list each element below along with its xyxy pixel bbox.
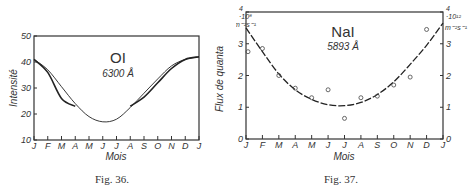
svg-text:30: 30	[21, 83, 31, 93]
svg-text:J: J	[243, 140, 249, 150]
right-unit-exponent: ·10¹²	[446, 13, 461, 20]
svg-text:3: 3	[238, 39, 243, 49]
svg-text:J: J	[113, 141, 119, 151]
svg-text:0: 0	[238, 134, 243, 144]
svg-text:0: 0	[446, 134, 451, 144]
svg-text:20: 20	[20, 109, 31, 119]
figure-37: 0123401234 JFMAMJJASONDJ ·10⁸ m⁻²s⁻¹ ·10…	[236, 0, 472, 189]
svg-text:O: O	[154, 141, 161, 151]
svg-text:S: S	[374, 140, 380, 150]
data-point	[425, 27, 429, 31]
svg-text:M: M	[308, 140, 316, 150]
svg-text:4: 4	[446, 5, 450, 12]
x-axis-ticks: JFMAMJJASONDJ	[31, 136, 202, 151]
svg-text:N: N	[407, 140, 414, 150]
nai-flux-chart: 0123401234 JFMAMJJASONDJ ·10⁸ m⁻²s⁻¹ ·10…	[236, 0, 472, 189]
svg-text:J: J	[440, 140, 446, 150]
data-point	[326, 88, 330, 92]
svg-text:J: J	[341, 140, 347, 150]
curves	[34, 57, 199, 122]
left-unit: m⁻²s⁻¹	[236, 21, 257, 28]
svg-text:J: J	[325, 140, 331, 150]
figure-caption: Fig. 37.	[324, 173, 358, 185]
data-point	[392, 83, 396, 87]
data-point	[343, 116, 347, 120]
observed-curve	[130, 57, 199, 106]
figure-caption: Fig. 36.	[95, 173, 129, 185]
data-point	[359, 96, 363, 100]
svg-text:M: M	[85, 141, 93, 151]
svg-text:D: D	[423, 140, 430, 150]
svg-text:J: J	[100, 141, 106, 151]
svg-text:D: D	[182, 141, 189, 151]
svg-text:50: 50	[21, 31, 31, 41]
svg-text:A: A	[357, 140, 364, 150]
svg-text:A: A	[291, 140, 298, 150]
chart-title: NaI	[331, 23, 354, 40]
svg-text:40: 40	[21, 57, 31, 67]
svg-text:S: S	[141, 141, 147, 151]
svg-text:1: 1	[446, 102, 451, 112]
data-point	[408, 75, 412, 79]
x-axis-label: Mois	[105, 151, 126, 162]
svg-text:O: O	[390, 140, 397, 150]
svg-text:J: J	[31, 141, 37, 151]
right-unit: m⁻²s⁻¹	[445, 24, 468, 31]
left-unit-exponent: ·10⁸	[239, 13, 252, 20]
data-point	[310, 96, 314, 100]
chart-title: OI	[110, 49, 126, 66]
data-point	[246, 50, 250, 54]
chart-subtitle: 5893 Å	[327, 40, 359, 52]
svg-text:F: F	[260, 140, 266, 150]
svg-text:F: F	[45, 141, 51, 151]
svg-text:A: A	[71, 141, 78, 151]
svg-text:10: 10	[21, 135, 31, 145]
oi-intensity-chart: 1020304050 JFMAMJJASONDJ OI 6300 Å Mois …	[0, 0, 236, 189]
svg-text:4: 4	[239, 5, 243, 12]
x-axis-label: Mois	[333, 151, 354, 162]
svg-text:2: 2	[445, 71, 451, 81]
data-point	[260, 47, 264, 51]
svg-text:M: M	[275, 140, 283, 150]
svg-text:3: 3	[446, 39, 451, 49]
svg-text:N: N	[168, 141, 175, 151]
svg-text:M: M	[58, 141, 66, 151]
figure-36: 1020304050 JFMAMJJASONDJ OI 6300 Å Mois …	[0, 0, 236, 189]
x-axis-ticks: JFMAMJJASONDJ	[243, 135, 446, 150]
chart-subtitle: 6300 Å	[102, 67, 134, 79]
observed-curve	[34, 59, 75, 106]
svg-text:2: 2	[237, 71, 243, 81]
svg-text:1: 1	[238, 102, 243, 112]
y-axis-label: Intensité	[8, 69, 19, 107]
svg-text:A: A	[126, 141, 133, 151]
svg-text:J: J	[196, 141, 202, 151]
